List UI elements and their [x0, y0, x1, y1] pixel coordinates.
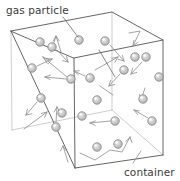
velocity-arrow-10 [26, 102, 37, 115]
diagram-canvas: gas particle container [0, 0, 180, 181]
gas-particle [131, 53, 139, 61]
velocity-arrow-7 [45, 75, 66, 80]
label-gas-particle: gas particle [6, 4, 69, 16]
gas-particle [101, 37, 109, 45]
velocity-arrow-16 [43, 57, 67, 77]
gas-particle [86, 74, 94, 82]
gas-particle [155, 73, 163, 81]
gas-particle [111, 117, 119, 125]
velocity-arrow-bottom-left [60, 146, 68, 162]
container-front-edges [11, 12, 163, 168]
velocity-arrow-zigzag-top-right [129, 31, 140, 46]
gas-particle [139, 95, 147, 103]
gas-particle [148, 117, 156, 125]
gas-particle [48, 43, 56, 51]
gas-particle [120, 66, 128, 74]
gas-particle [75, 36, 83, 44]
gas-particle-diagram: gas particle container [0, 0, 180, 181]
gas-particle [114, 140, 122, 148]
velocity-arrow-17 [95, 57, 118, 70]
velocity-arrow-mid [100, 86, 113, 95]
gas-particle [58, 109, 66, 117]
gas-particle [37, 94, 45, 102]
gas-particle [36, 38, 44, 46]
edge-top-face [11, 12, 163, 58]
gas-particle [67, 75, 75, 83]
edge-back-left-vertical [11, 31, 12, 130]
gas-particle [93, 143, 101, 151]
leader-container [133, 151, 141, 163]
gas-particle [52, 123, 60, 131]
velocity-arrow-13 [90, 121, 110, 126]
label-container: container [124, 166, 175, 178]
velocity-arrow-zigzag-bottom [80, 137, 132, 160]
container-wireframe [11, 12, 163, 168]
leader-gas-particle-extension [99, 50, 115, 77]
velocity-arrow-4 [131, 62, 142, 74]
edge-front-left-vertical [74, 58, 75, 168]
velocity-arrow-1 [57, 50, 68, 62]
velocity-arrow-8 [74, 71, 85, 76]
container-back-edges [11, 12, 163, 155]
gas-particle [142, 53, 150, 61]
gas-particle [93, 96, 101, 104]
velocity-arrow-15 [134, 110, 148, 118]
gas-particle [28, 64, 36, 72]
gas-particle [78, 112, 86, 120]
